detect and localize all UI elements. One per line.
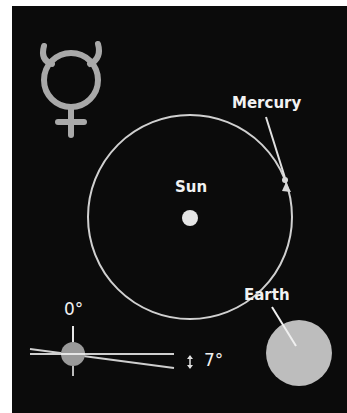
earth-icon [266,320,332,386]
orbit-direction-arrow-icon [282,182,291,192]
zero-degree-label: 0° [64,301,83,318]
earth-label: Earth [244,288,290,303]
orbital-plane-line [30,349,174,368]
angle-bracket-icon [187,355,193,369]
mercury-pointer-line [266,117,285,178]
sun-icon [182,210,198,226]
inclination-inset [30,326,193,376]
mercury-planet-icon [282,177,288,183]
mercury-symbol-icon [43,44,99,135]
sun-label: Sun [175,180,207,195]
inclination-angle-label: 7° [204,352,223,369]
mercury-orbit-diagram [0,0,347,413]
mercury-label: Mercury [232,96,301,111]
